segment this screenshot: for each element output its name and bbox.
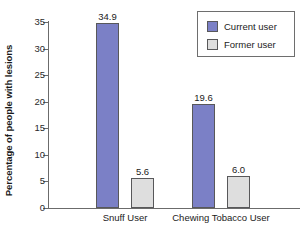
legend: Current user Former user — [197, 11, 295, 57]
bar-snuff-current-user: 34.9 — [96, 23, 119, 208]
bar-value-snuff-current: 34.9 — [98, 11, 117, 22]
y-tick-label-25: 25 — [34, 69, 45, 80]
bar-value-snuff-former: 5.6 — [136, 166, 149, 177]
legend-swatch-current-user-icon — [207, 21, 218, 32]
y-tick-label-35: 35 — [34, 16, 45, 27]
legend-swatch-former-user-icon — [207, 39, 218, 50]
y-tick-label-15: 15 — [34, 122, 45, 133]
bar-chewing-current-user: 19.6 — [192, 104, 215, 208]
legend-item-former-user: Former user — [207, 35, 294, 53]
bar-snuff-former-user: 5.6 — [131, 178, 154, 208]
bar-value-chewing-former: 6.0 — [232, 164, 245, 175]
y-axis-title: Percentage of people with lesions — [0, 0, 16, 241]
y-tick-label-5: 5 — [40, 175, 45, 186]
bar-chart: Percentage of people with lesions 0 5 10… — [0, 0, 306, 241]
y-tick-label-20: 20 — [34, 96, 45, 107]
y-tick-label-30: 30 — [34, 43, 45, 54]
x-category-label-snuff-user: Snuff User — [103, 212, 148, 223]
bar-value-chewing-current: 19.6 — [194, 92, 213, 103]
legend-label-current-user: Current user — [224, 21, 277, 32]
x-category-label-chewing-tobacco-user: Chewing Tobacco User — [172, 212, 270, 223]
bar-chewing-former-user: 6.0 — [227, 176, 250, 208]
x-axis-line — [48, 208, 300, 209]
legend-item-current-user: Current user — [207, 17, 294, 35]
y-tick-label-10: 10 — [34, 149, 45, 160]
legend-label-former-user: Former user — [224, 39, 276, 50]
y-tick-label-0: 0 — [40, 202, 45, 213]
